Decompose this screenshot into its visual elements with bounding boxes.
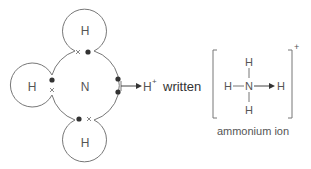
left-bracket [213,50,217,118]
bottom-hydrogen-label: H [81,136,90,150]
dot-electron-icon [85,49,90,54]
dot-electron-icon [115,89,120,94]
formula-bottom-h: H [245,104,253,116]
formula-left-h: H [224,80,232,92]
dot-electron-icon [49,77,54,82]
arrow-head-icon [136,83,142,89]
caption: ammonium ion [217,125,289,137]
hydrogen-ion-charge: + [152,77,157,86]
ammonium-formation-diagram: H H H N H + written + H N H H H ammonium… [0,0,311,169]
hydrogen-ion-label: H [143,80,152,94]
ion-charge: + [294,42,299,52]
formula-n: N [245,80,253,92]
formula-right-h: H [277,80,285,92]
connector-word: written [162,79,201,94]
top-hydrogen-label: H [81,24,90,38]
dot-electron-icon [76,116,81,121]
nitrogen-label: N [81,80,90,94]
dot-electron-icon [115,76,120,81]
formula-top-h: H [245,56,253,68]
dative-arrow-head-icon [269,83,275,89]
left-hydrogen-label: H [28,80,37,94]
cross-electron-icon [76,50,80,54]
cross-electron-icon [50,88,54,92]
right-bracket [288,50,292,118]
cross-electron-icon [87,117,91,121]
